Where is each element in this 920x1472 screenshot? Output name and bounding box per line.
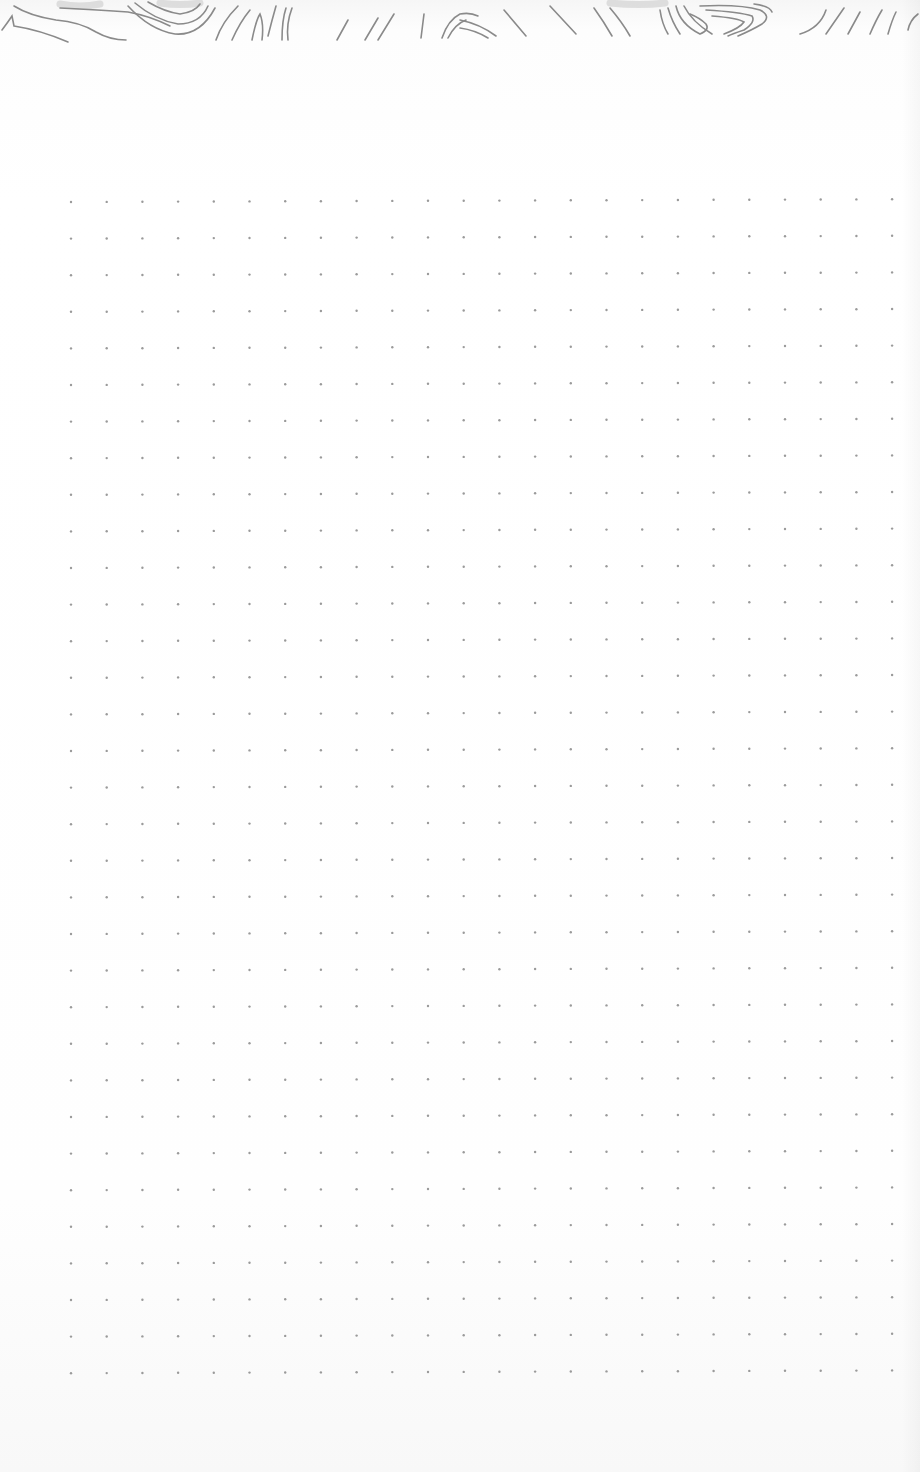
grid-dot (320, 1042, 322, 1044)
grid-dot (784, 235, 786, 237)
grid-dot (534, 272, 536, 274)
grid-dot (70, 1006, 72, 1008)
grid-dot (534, 1041, 536, 1043)
grid-dot (463, 383, 465, 385)
grid-dot (498, 639, 500, 641)
grid-dot (213, 713, 215, 715)
grid-dot (712, 565, 714, 567)
grid-dot (605, 675, 607, 677)
grid-dot (712, 1333, 714, 1335)
grid-dot (855, 564, 857, 566)
grid-dot (605, 1370, 607, 1372)
grid-dot (534, 199, 536, 201)
grid-dot (855, 1186, 857, 1188)
grid-dot (855, 601, 857, 603)
grid-dot (106, 1262, 108, 1264)
grid-dot (391, 1188, 393, 1190)
grid-dot (463, 1371, 465, 1373)
grid-dot (463, 712, 465, 714)
grid-dot (605, 785, 607, 787)
grid-dot (855, 747, 857, 749)
grid-dot (355, 602, 357, 604)
grid-dot (141, 859, 143, 861)
grid-dot (355, 785, 357, 787)
grid-dot (855, 235, 857, 237)
grid-dot (820, 894, 822, 896)
grid-dot (605, 894, 607, 896)
grid-dot (784, 1040, 786, 1042)
grid-dot (891, 235, 893, 237)
grid-dot (427, 1298, 429, 1300)
grid-dot (677, 858, 679, 860)
grid-dot (70, 933, 72, 935)
grid-dot (248, 310, 250, 312)
grid-dot (284, 237, 286, 239)
grid-dot (355, 1042, 357, 1044)
grid-dot (177, 713, 179, 715)
grid-dot (141, 347, 143, 349)
grid-dot (498, 382, 500, 384)
grid-dot (498, 822, 500, 824)
grid-dot (712, 1370, 714, 1372)
grid-dot (570, 346, 572, 348)
grid-dot (534, 382, 536, 384)
grid-dot (820, 381, 822, 383)
grid-dot (463, 895, 465, 897)
grid-dot (820, 1187, 822, 1189)
grid-dot (534, 602, 536, 604)
grid-dot (177, 457, 179, 459)
grid-dot (712, 931, 714, 933)
grid-dot (641, 711, 643, 713)
grid-dot (641, 785, 643, 787)
grid-dot (641, 1370, 643, 1372)
grid-dot (106, 750, 108, 752)
grid-dot (427, 675, 429, 677)
grid-dot (248, 676, 250, 678)
grid-dot (463, 968, 465, 970)
grid-dot (355, 1005, 357, 1007)
grid-dot (641, 455, 643, 457)
grid-dot (498, 1371, 500, 1373)
grid-dot (605, 1077, 607, 1079)
grid-dot (106, 1226, 108, 1228)
grid-dot (391, 1078, 393, 1080)
grid-dot (641, 602, 643, 604)
grid-dot (712, 455, 714, 457)
grid-dot (677, 1077, 679, 1079)
grid-dot (712, 1004, 714, 1006)
grid-dot (570, 675, 572, 677)
grid-dot (141, 1042, 143, 1044)
grid-dot (355, 419, 357, 421)
grid-dot (177, 1006, 179, 1008)
grid-dot (248, 347, 250, 349)
grid-dot (891, 198, 893, 200)
grid-dot (427, 1115, 429, 1117)
grid-dot (320, 786, 322, 788)
grid-dot (248, 1079, 250, 1081)
grid-dot (605, 1334, 607, 1336)
grid-dot (177, 1079, 179, 1081)
grid-dot (213, 383, 215, 385)
grid-dot (70, 311, 72, 313)
grid-dot (141, 933, 143, 935)
grid-dot (106, 1299, 108, 1301)
grid-dot (427, 566, 429, 568)
grid-dot (641, 272, 643, 274)
grid-dot (712, 711, 714, 713)
grid-dot (463, 1115, 465, 1117)
grid-dot (320, 456, 322, 458)
grid-dot (391, 1334, 393, 1336)
notebook-page (0, 0, 920, 1472)
grid-dot (677, 1187, 679, 1189)
grid-dot (70, 1226, 72, 1228)
grid-dot (677, 894, 679, 896)
grid-dot (784, 198, 786, 200)
grid-dot (855, 1113, 857, 1115)
grid-dot (248, 896, 250, 898)
grid-dot (355, 1371, 357, 1373)
grid-dot (355, 273, 357, 275)
grid-dot (748, 711, 750, 713)
grid-dot (712, 1260, 714, 1262)
grid-dot (677, 492, 679, 494)
grid-dot (605, 492, 607, 494)
